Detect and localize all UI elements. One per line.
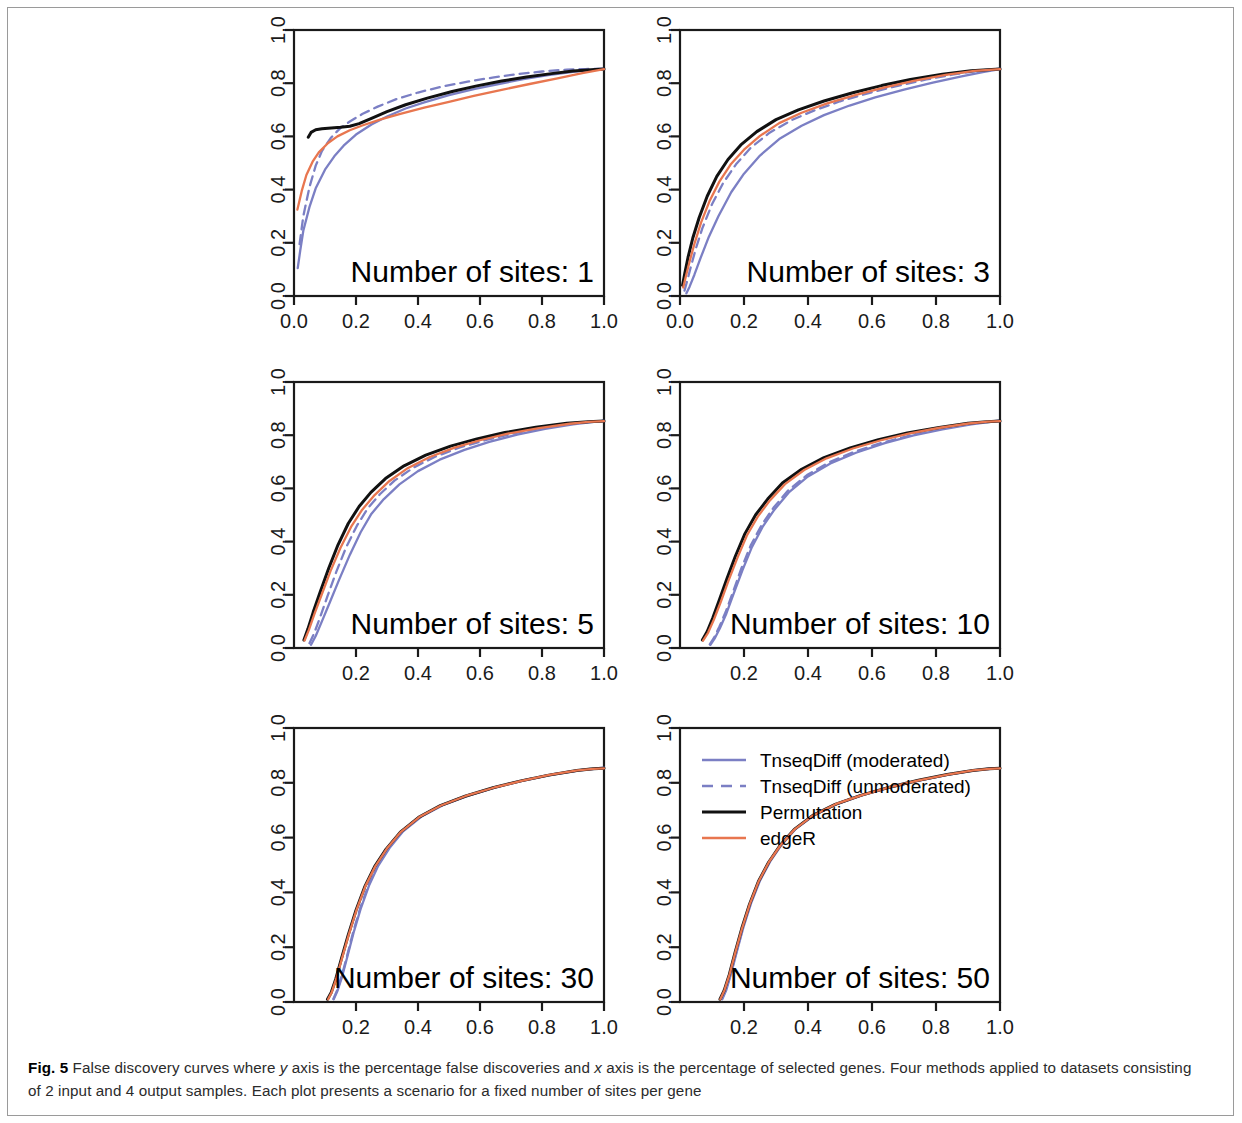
x-tick-label: 1.0	[986, 1016, 1014, 1038]
x-tick-label: 0.8	[528, 662, 556, 684]
y-tick-label: 0.4	[267, 528, 289, 556]
x-tick-label: 1.0	[590, 662, 618, 684]
caption-text-1: False discovery curves where	[68, 1059, 279, 1076]
x-tick-label: 1.0	[986, 310, 1014, 332]
x-tick-label: 0.2	[730, 662, 758, 684]
plot-panel-sites-30: 0.20.40.60.81.00.00.20.40.60.81.0Number …	[250, 712, 620, 1050]
y-tick-label: 0.8	[653, 69, 675, 97]
y-tick-label: 0.0	[653, 988, 675, 1016]
y-tick-label: 0.2	[653, 581, 675, 609]
x-tick-label: 0.4	[794, 310, 822, 332]
x-tick-label: 0.2	[342, 662, 370, 684]
x-tick-label: 0.4	[404, 310, 432, 332]
y-tick-label: 0.4	[653, 878, 675, 906]
x-tick-label: 0.6	[466, 1016, 494, 1038]
x-tick-label: 0.6	[466, 310, 494, 332]
y-tick-label: 1.0	[653, 16, 675, 44]
figure-label: Fig. 5	[28, 1059, 68, 1076]
y-tick-label: 0.6	[653, 474, 675, 502]
panel-title: Number of sites: 1	[351, 255, 594, 288]
y-tick-label: 0.0	[267, 634, 289, 662]
y-tick-label: 0.8	[267, 69, 289, 97]
x-tick-label: 0.0	[280, 310, 308, 332]
y-tick-label: 0.4	[267, 878, 289, 906]
plot-panel-sites-1: 0.00.20.40.60.81.00.00.20.40.60.81.0Numb…	[250, 14, 620, 344]
y-tick-label: 0.2	[267, 581, 289, 609]
y-tick-label: 0.4	[267, 176, 289, 204]
y-tick-label: 0.8	[653, 769, 675, 797]
x-tick-label: 0.6	[858, 662, 886, 684]
x-tick-label: 0.8	[922, 1016, 950, 1038]
y-tick-label: 0.2	[653, 229, 675, 257]
y-tick-label: 1.0	[267, 714, 289, 742]
x-tick-label: 0.0	[666, 310, 694, 332]
x-tick-label: 0.2	[730, 310, 758, 332]
y-tick-label: 1.0	[267, 16, 289, 44]
x-tick-label: 0.8	[922, 662, 950, 684]
curve-edger	[297, 69, 604, 209]
plot-panel-sites-5: 0.20.40.60.81.00.00.20.40.60.81.0Number …	[250, 366, 620, 696]
y-tick-label: 0.6	[267, 474, 289, 502]
x-tick-label: 0.6	[466, 662, 494, 684]
x-tick-label: 1.0	[590, 1016, 618, 1038]
y-tick-label: 0.4	[653, 176, 675, 204]
y-tick-label: 0.2	[267, 229, 289, 257]
curve-permutation	[308, 69, 604, 137]
panel-title: Number of sites: 3	[747, 255, 990, 288]
x-tick-label: 0.4	[794, 1016, 822, 1038]
x-tick-label: 0.2	[730, 1016, 758, 1038]
x-tick-label: 0.6	[858, 1016, 886, 1038]
y-tick-label: 0.0	[267, 988, 289, 1016]
y-tick-label: 0.2	[267, 933, 289, 961]
x-tick-label: 0.6	[858, 310, 886, 332]
plot-panel-sites-3: 0.00.20.40.60.81.00.00.20.40.60.81.0Numb…	[636, 14, 1016, 344]
y-tick-label: 0.4	[653, 528, 675, 556]
x-tick-label: 0.2	[342, 310, 370, 332]
caption-axis-x: x	[594, 1059, 602, 1076]
y-tick-label: 0.0	[267, 282, 289, 310]
x-tick-label: 0.2	[342, 1016, 370, 1038]
panel-title: Number of sites: 50	[730, 961, 990, 994]
panel-title: Number of sites: 5	[351, 607, 594, 640]
x-tick-label: 1.0	[590, 310, 618, 332]
legend-label-3: edgeR	[760, 828, 816, 849]
x-tick-label: 0.4	[404, 662, 432, 684]
y-tick-label: 0.8	[267, 421, 289, 449]
panel-title: Number of sites: 30	[334, 961, 594, 994]
y-tick-label: 0.6	[653, 824, 675, 852]
y-tick-label: 0.0	[653, 282, 675, 310]
x-tick-label: 0.4	[404, 1016, 432, 1038]
panel-title: Number of sites: 10	[730, 607, 990, 640]
y-tick-label: 0.8	[653, 421, 675, 449]
x-tick-label: 0.4	[794, 662, 822, 684]
curve-tnseqdiff-moderated	[298, 69, 604, 268]
x-tick-label: 1.0	[986, 662, 1014, 684]
x-tick-label: 0.8	[528, 1016, 556, 1038]
y-tick-label: 0.6	[653, 122, 675, 150]
x-tick-label: 0.8	[528, 310, 556, 332]
figure-caption: Fig. 5 False discovery curves where y ax…	[28, 1056, 1208, 1102]
y-tick-label: 0.8	[267, 769, 289, 797]
y-tick-label: 0.6	[267, 824, 289, 852]
legend-label-1: TnseqDiff (unmoderated)	[760, 776, 971, 797]
x-tick-label: 0.8	[922, 310, 950, 332]
plot-panel-sites-50: 0.20.40.60.81.00.00.20.40.60.81.0Number …	[636, 712, 1016, 1050]
y-tick-label: 0.0	[653, 634, 675, 662]
y-tick-label: 1.0	[653, 714, 675, 742]
plot-grid: 0.00.20.40.60.81.00.00.20.40.60.81.0Numb…	[0, 0, 1242, 1050]
plot-panel-sites-10: 0.20.40.60.81.00.00.20.40.60.81.0Number …	[636, 366, 1016, 696]
y-tick-label: 1.0	[267, 368, 289, 396]
caption-text-2: axis is the percentage false discoveries…	[287, 1059, 594, 1076]
y-tick-label: 0.2	[653, 933, 675, 961]
y-tick-label: 0.6	[267, 122, 289, 150]
y-tick-label: 1.0	[653, 368, 675, 396]
legend-label-2: Permutation	[760, 802, 862, 823]
legend-label-0: TnseqDiff (moderated)	[760, 750, 950, 771]
